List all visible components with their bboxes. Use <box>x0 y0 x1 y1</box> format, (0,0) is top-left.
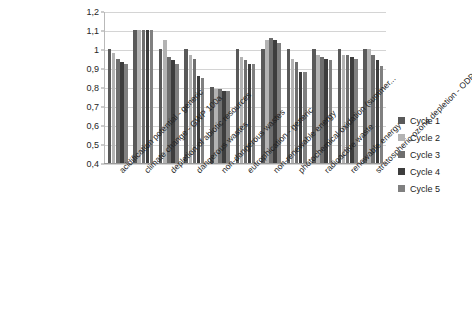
x-axis-tick-label: renewable energy <box>348 168 355 175</box>
y-axis-tick-label: 1 <box>94 45 99 55</box>
bar <box>108 49 112 163</box>
y-axis-tick-label: 0,6 <box>86 121 99 131</box>
x-axis-tick-label: non-renewable energy <box>271 168 278 175</box>
legend-label: Cycle 5 <box>410 184 440 194</box>
bar <box>120 62 124 163</box>
legend-swatch <box>398 117 405 124</box>
bar <box>116 59 120 164</box>
x-axis-tick-label: stratospheric ozone depletion - ODP ... <box>373 168 380 175</box>
x-axis-tick-label: acidification potential - generic <box>117 168 124 175</box>
x-axis-tick-label: photochemical oxidation (summer... <box>296 168 303 175</box>
x-axis-tick-label: depletion of abiotic resources <box>168 168 175 175</box>
legend-swatch <box>398 151 405 158</box>
legend-item[interactable]: Cycle 1 <box>398 112 470 129</box>
legend-item[interactable]: Cycle 4 <box>398 163 470 180</box>
y-axis-tick-label: 0,5 <box>86 140 99 150</box>
legend-label: Cycle 4 <box>410 167 440 177</box>
bar <box>338 49 342 163</box>
bar <box>124 64 128 163</box>
x-axis-tick-label: climate change - GWP 100a <box>142 168 149 175</box>
x-axis-category-labels: acidification potential - genericclimate… <box>104 166 386 306</box>
legend-swatch <box>398 168 405 175</box>
x-axis-tick-label: radioactive waste <box>322 168 329 175</box>
bar <box>133 30 137 163</box>
bar <box>312 49 316 163</box>
bar <box>287 49 291 163</box>
legend-label: Cycle 3 <box>410 150 440 160</box>
bar <box>112 53 116 163</box>
chart-legend: Cycle 1Cycle 2Cycle 3Cycle 4Cycle 5 <box>398 112 470 197</box>
legend-item[interactable]: Cycle 2 <box>398 129 470 146</box>
x-axis-tick-label: eutrophication - generic <box>245 168 252 175</box>
legend-label: Cycle 1 <box>410 116 440 126</box>
legend-swatch <box>398 185 405 192</box>
legend-swatch <box>398 134 405 141</box>
bar <box>159 49 163 163</box>
legend-item[interactable]: Cycle 5 <box>398 180 470 197</box>
bar-chart: 1,21,110,90,80,70,60,50,4 acidification … <box>0 0 472 315</box>
y-axis-tick-label: 1,2 <box>86 7 99 17</box>
y-axis-tick-label: 0,9 <box>86 64 99 74</box>
y-axis-tick-label: 1,1 <box>86 26 99 36</box>
y-axis-tick-label: 0,8 <box>86 83 99 93</box>
y-axis-tick-label: 0,4 <box>86 159 99 169</box>
x-axis-tick-label: dangerous wastes <box>194 168 201 175</box>
y-axis-tick-label: 0,7 <box>86 102 99 112</box>
bar-group <box>105 12 131 163</box>
legend-item[interactable]: Cycle 3 <box>398 146 470 163</box>
legend-label: Cycle 2 <box>410 133 440 143</box>
x-axis-tick-label: non-dangerous wastes <box>219 168 226 175</box>
bar <box>261 49 265 163</box>
bar <box>226 91 230 163</box>
